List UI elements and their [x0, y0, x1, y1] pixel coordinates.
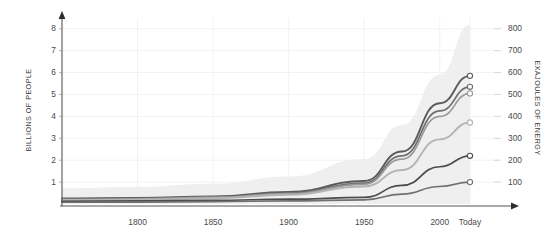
- x-tick-label: 1950: [334, 217, 394, 227]
- y-tick-label-right: 200: [508, 155, 522, 165]
- y-tick-label-right: 600: [508, 67, 522, 77]
- endpoint-marker-series-4: [467, 120, 472, 125]
- endpoint-marker-series-3: [467, 91, 472, 96]
- endpoint-marker-series-5: [467, 153, 472, 158]
- x-tick-label: 1850: [183, 217, 243, 227]
- y-tick-label-right: 300: [508, 133, 522, 143]
- range-band-area: [62, 24, 470, 204]
- x-tick-label: 1900: [259, 217, 319, 227]
- y-axis-arrowhead: [59, 11, 66, 19]
- y-tick-label-right: 700: [508, 45, 522, 55]
- y-tick-label-left: 2: [16, 155, 56, 165]
- y-tick-label-left: 3: [16, 133, 56, 143]
- y-axis-right-title: EXAJOULES OF ENERGY: [533, 60, 542, 155]
- y-tick-label-left: 8: [16, 23, 56, 33]
- line-chart-plot: [0, 0, 557, 237]
- endpoint-marker-series-6: [467, 179, 472, 184]
- y-tick-label-right: 800: [508, 23, 522, 33]
- y-tick-label-left: 6: [16, 67, 56, 77]
- y-tick-label-right: 100: [508, 177, 522, 187]
- y-tick-label-left: 7: [16, 45, 56, 55]
- y-tick-label-left: 5: [16, 89, 56, 99]
- x-tick-label: Today: [440, 217, 500, 227]
- x-tick-label: 1800: [108, 217, 168, 227]
- range-band-group: [62, 24, 470, 204]
- x-axis-arrowhead: [511, 203, 519, 210]
- y-tick-label-right: 500: [508, 89, 522, 99]
- y-tick-label-left: 4: [16, 111, 56, 121]
- chart-canvas: BILLIONS OF PEOPLE EXAJOULES OF ENERGY 1…: [0, 0, 557, 237]
- y-tick-label-right: 400: [508, 111, 522, 121]
- endpoint-marker-series-1: [467, 73, 472, 78]
- endpoint-marker-series-2: [467, 84, 472, 89]
- y-tick-label-left: 1: [16, 177, 56, 187]
